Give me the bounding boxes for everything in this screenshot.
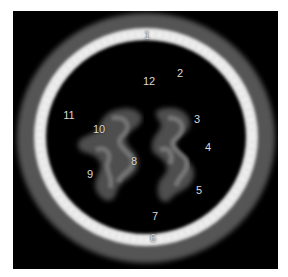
brain-scan-graphic — [13, 11, 278, 269]
label-2: 2 — [177, 68, 183, 79]
label-4: 4 — [205, 142, 211, 153]
label-12: 12 — [143, 76, 155, 87]
label-8: 8 — [131, 156, 137, 167]
label-1: 1 — [144, 30, 150, 41]
label-9: 9 — [87, 169, 93, 180]
mri-image — [13, 11, 278, 269]
label-5: 5 — [196, 185, 202, 196]
label-3: 3 — [194, 114, 200, 125]
label-10: 10 — [93, 124, 105, 135]
label-6: 6 — [150, 233, 156, 244]
label-7: 7 — [152, 211, 158, 222]
label-11: 11 — [63, 110, 74, 121]
